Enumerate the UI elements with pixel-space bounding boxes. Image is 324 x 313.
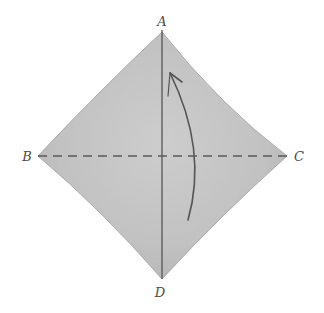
vertex-label-d: D xyxy=(155,286,165,299)
vertex-label-c: C xyxy=(294,150,304,163)
vertex-label-b: B xyxy=(22,150,32,163)
origami-diagram: A B C D xyxy=(0,0,324,313)
diagram-svg xyxy=(0,0,324,313)
vertex-label-a: A xyxy=(157,15,166,28)
